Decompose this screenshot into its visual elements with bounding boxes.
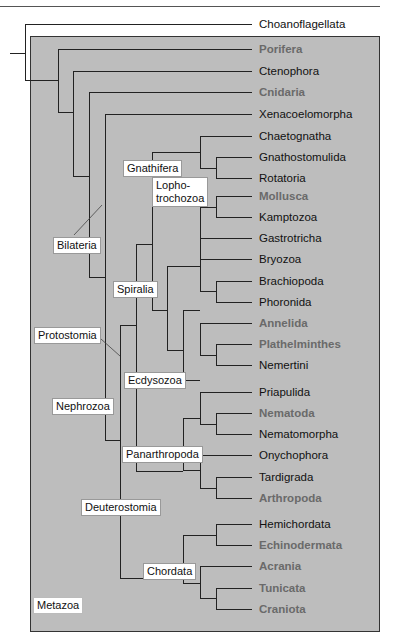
leaf-plathelminthes: Plathelminthes (259, 337, 341, 351)
clade-label-ecdysozoa: Ecdysozoa (124, 372, 186, 389)
leaf-annelida: Annelida (259, 316, 308, 330)
leaf-phoronida: Phoronida (259, 295, 311, 309)
leaf-acrania: Acrania (259, 559, 301, 573)
clade-label-lophotrochozoa-line2: trochozoa (156, 192, 204, 205)
clade-label-panarthropoda: Panarthropoda (122, 446, 203, 463)
leaf-priapulida: Priapulida (259, 385, 310, 399)
clade-label-lophotrochozoa-line1: Lopho- (156, 179, 204, 192)
leaf-arthropoda: Arthropoda (259, 491, 322, 505)
leaf-gastrotricha: Gastrotricha (259, 231, 322, 245)
leaf-bryozoa: Bryozoa (259, 252, 301, 266)
clade-label-bilateria: Bilateria (53, 237, 101, 254)
clade-label-lophotrochozoa: Lopho- trochozoa (152, 177, 208, 207)
clade-label-deuterostomia: Deuterostomia (81, 499, 161, 516)
leaf-xenacoelomorpha: Xenacoelomorpha (259, 107, 352, 121)
clade-label-chordata: Chordata (143, 563, 196, 580)
clade-label-spiralia: Spiralia (113, 281, 158, 298)
clade-label-gnathifera: Gnathifera (123, 160, 182, 177)
leaf-nemertini: Nemertini (259, 358, 308, 372)
leaf-cnidaria: Cnidaria (259, 85, 305, 99)
leaf-mollusca: Mollusca (259, 189, 308, 203)
clade-label-nephrozoa: Nephrozoa (52, 398, 114, 415)
leaf-chaetognatha: Chaetognatha (259, 129, 331, 143)
leaf-tunicata: Tunicata (259, 581, 305, 595)
leaf-kamptozoa: Kamptozoa (259, 210, 317, 224)
clade-label-protostomia: Protostomia (34, 327, 101, 344)
leaf-porifera: Porifera (259, 42, 302, 56)
leaf-choanoflagellata: Choanoflagellata (259, 17, 345, 31)
leaf-craniota: Craniota (259, 602, 306, 616)
leaf-rotatoria: Rotatoria (259, 171, 306, 185)
leaf-echinodermata: Echinodermata (259, 538, 342, 552)
leaf-brachiopoda: Brachiopoda (259, 274, 324, 288)
leaf-tardigrada: Tardigrada (259, 470, 313, 484)
leaf-ctenophora: Ctenophora (259, 64, 319, 78)
leaf-hemichordata: Hemichordata (259, 517, 331, 531)
group-label-metazoa: Metazoa (33, 597, 83, 614)
leaf-nematomorpha: Nematomorpha (259, 427, 338, 441)
leaf-onychophora: Onychophora (259, 448, 328, 462)
leaf-gnathostomulida: Gnathostomulida (259, 150, 346, 164)
leaf-nematoda: Nematoda (259, 406, 315, 420)
